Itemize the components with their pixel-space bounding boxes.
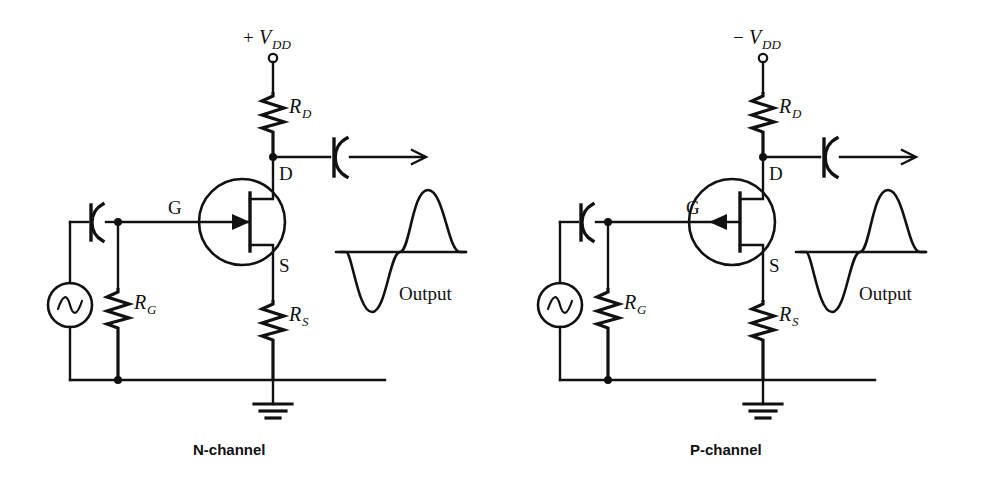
gate-resistor-n	[107, 288, 129, 380]
figure-canvas: + V DD R D D G S R S	[0, 0, 992, 482]
source-terminal-label-n: S	[279, 255, 290, 276]
gate-terminal-label-p: G	[686, 197, 700, 218]
output-waveform-positive-lobe-p	[860, 190, 926, 252]
drain-resistor-label-n: R	[288, 95, 301, 117]
supply-sign-n: +	[243, 27, 254, 48]
jfet-gate-arrow-outward-p	[709, 214, 727, 230]
output-label-n: Output	[399, 283, 453, 304]
ground-icon-n	[254, 380, 292, 418]
gate-resistor-label-p: R	[623, 291, 636, 313]
source-resistor-sub-p: S	[792, 314, 799, 329]
drain-terminal-label-n: D	[279, 163, 293, 184]
supply-sub-n: DD	[271, 37, 291, 52]
ground-icon-p	[744, 380, 782, 418]
gate-junction-bottom-p	[604, 376, 612, 384]
output-waveform-negative-lobe-n	[340, 252, 400, 312]
gate-resistor-p	[597, 288, 619, 380]
source-resistor-label-n: R	[288, 303, 301, 325]
circuit-p-channel: − V DD R D D G S R S	[538, 26, 926, 458]
jfet-drain-lead-n	[250, 157, 273, 199]
source-resistor-label-p: R	[778, 303, 791, 325]
drain-resistor-label-p: R	[778, 95, 791, 117]
source-terminal-label-p: S	[769, 255, 780, 276]
gate-resistor-sub-n: G	[147, 302, 157, 317]
gate-junction-bottom-n	[114, 376, 122, 384]
output-waveform-negative-lobe-p	[800, 252, 860, 312]
caption-p-channel: P-channel	[690, 441, 762, 458]
drain-resistor-sub-n: D	[301, 106, 312, 121]
supply-sign-p: −	[733, 27, 744, 48]
drain-resistor-p	[752, 92, 774, 157]
input-cap-plate-curved-p	[582, 204, 593, 241]
gate-resistor-label-n: R	[133, 291, 146, 313]
ac-source-sine-icon-p	[548, 297, 572, 313]
source-resistor-n	[262, 300, 284, 380]
source-resistor-p	[752, 300, 774, 380]
jfet-source-lead-p	[740, 245, 763, 300]
jfet-source-lead-n	[250, 245, 273, 300]
caption-n-channel: N-channel	[193, 441, 266, 458]
jfet-gate-arrow-inward-n	[232, 214, 250, 230]
output-cap-plate-curved-n	[335, 138, 347, 177]
gate-resistor-sub-p: G	[637, 302, 647, 317]
drain-resistor-n	[262, 92, 284, 157]
supply-sub-p: DD	[761, 37, 781, 52]
input-cap-plate-curved-n	[92, 204, 103, 241]
output-waveform-positive-lobe-n	[400, 190, 466, 252]
drain-terminal-label-p: D	[769, 163, 783, 184]
jfet-drain-lead-p	[740, 157, 763, 199]
gate-terminal-label-n: G	[168, 197, 182, 218]
circuit-n-channel: + V DD R D D G S R S	[48, 26, 466, 458]
output-label-p: Output	[859, 283, 913, 304]
source-resistor-sub-n: S	[302, 314, 309, 329]
output-cap-plate-curved-p	[825, 138, 837, 177]
drain-resistor-sub-p: D	[791, 106, 802, 121]
ac-source-sine-icon-n	[58, 297, 82, 313]
